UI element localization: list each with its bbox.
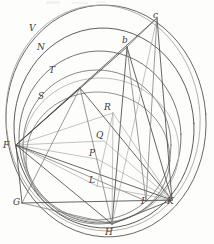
chord-F-G [16, 145, 22, 203]
point-label-F: F [3, 141, 9, 150]
scan-smudge [46, 1, 60, 4]
scan-smudge [72, 2, 88, 4]
point-label-L: L [89, 176, 95, 185]
point-label-I: I [141, 197, 145, 206]
chord-L-K [97, 186, 172, 200]
point-label-P: P [89, 149, 95, 158]
scan-artifact-group [46, 1, 106, 4]
chord-A-G [22, 88, 80, 203]
chord-P-K [97, 159, 172, 200]
chord-c-I [146, 18, 157, 201]
chord-F-Q [16, 141, 104, 145]
point-label-Q: Q [96, 131, 103, 140]
point-label-V: V [29, 24, 36, 33]
chord-F-P [16, 145, 97, 159]
chord-R-L [97, 113, 113, 186]
chord-R-H [112, 113, 113, 224]
circle-group [0, 0, 214, 244]
geometry-figure: VNTScbRQPLFGHIK [0, 0, 214, 244]
chord-b-I [127, 47, 146, 201]
point-label-G: G [13, 198, 20, 207]
chord-c-K [157, 18, 172, 200]
inner-circle [23, 70, 171, 220]
point-label-S: S [38, 92, 44, 101]
chord-b-c [127, 18, 157, 47]
scan-smudge [96, 1, 106, 3]
outer-circle [0, 0, 214, 244]
point-label-c: c [153, 11, 158, 20]
point-label-R: R [104, 103, 111, 112]
chord-G-H [22, 203, 112, 224]
chord-F-L [16, 145, 97, 186]
point-label-K: K [167, 197, 174, 206]
point-label-N: N [37, 43, 45, 52]
figure-canvas [0, 0, 214, 244]
point-label-b: b [122, 36, 128, 45]
point-label-H: H [105, 228, 113, 237]
point-label-T: T [49, 66, 55, 75]
